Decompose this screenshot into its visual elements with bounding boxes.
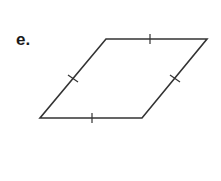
tick-mark-left bbox=[68, 75, 78, 82]
rhombus-figure bbox=[0, 0, 221, 181]
rhombus-outline bbox=[40, 39, 207, 118]
